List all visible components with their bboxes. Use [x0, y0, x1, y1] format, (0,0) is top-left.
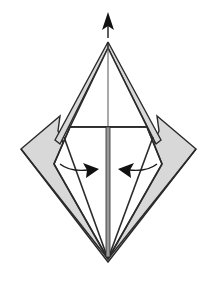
- origami-diagram: [0, 0, 215, 284]
- push-up-arrow: [102, 12, 114, 38]
- center-seam: [106, 127, 110, 257]
